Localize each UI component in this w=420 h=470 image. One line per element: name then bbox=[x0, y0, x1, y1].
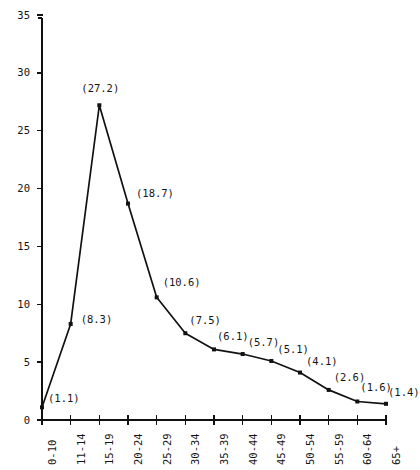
data-point-marker bbox=[97, 103, 101, 107]
x-axis-tick-label: 65+ bbox=[391, 446, 402, 465]
y-axis-tick-label: 30 bbox=[4, 67, 30, 78]
y-axis-tick-label: 15 bbox=[4, 241, 30, 252]
data-point-value-label: (6.1) bbox=[217, 331, 249, 342]
x-axis-tick-label: 35-39 bbox=[219, 433, 230, 465]
x-axis-tick-label: 25-29 bbox=[162, 433, 173, 465]
y-axis-tick-label: 35 bbox=[4, 10, 30, 21]
x-axis-tick-label: 40-44 bbox=[248, 433, 259, 465]
data-point-marker bbox=[269, 359, 273, 363]
x-axis-tick-label: 11-14 bbox=[76, 433, 87, 465]
y-axis-tick-label: 10 bbox=[4, 299, 30, 310]
data-point-marker bbox=[183, 331, 187, 335]
data-point-value-label: (10.6) bbox=[163, 277, 201, 288]
y-axis-tick-label: 25 bbox=[4, 125, 30, 136]
data-point-marker bbox=[327, 388, 331, 392]
data-point-value-label: (18.7) bbox=[136, 188, 174, 199]
data-point-value-label: (1.4) bbox=[388, 387, 420, 398]
x-axis-tick-label: 60-64 bbox=[362, 433, 373, 465]
data-point-marker bbox=[355, 399, 359, 403]
data-point-marker bbox=[298, 371, 302, 375]
data-point-value-label: (27.2) bbox=[81, 83, 119, 94]
y-axis-tick-label: 0 bbox=[4, 415, 30, 426]
data-point-marker bbox=[155, 295, 159, 299]
data-point-marker bbox=[40, 405, 44, 409]
data-point-marker bbox=[241, 352, 245, 356]
data-point-marker bbox=[126, 202, 130, 206]
data-point-value-label: (5.7) bbox=[248, 337, 280, 348]
data-point-marker bbox=[384, 402, 388, 406]
y-axis-tick-label: 20 bbox=[4, 183, 30, 194]
data-point-marker bbox=[69, 322, 73, 326]
x-axis-tick-label: 0-10 bbox=[47, 440, 58, 465]
data-point-marker bbox=[212, 347, 216, 351]
x-axis-tick-label: 50-54 bbox=[305, 433, 316, 465]
x-axis-tick-label: 15-19 bbox=[104, 433, 115, 465]
data-point-value-label: (8.3) bbox=[81, 314, 113, 325]
x-axis-tick-label: 30-34 bbox=[190, 433, 201, 465]
data-point-value-label: (5.1) bbox=[277, 344, 309, 355]
data-point-value-label: (4.1) bbox=[306, 356, 338, 367]
y-axis-tick-label: 5 bbox=[4, 357, 30, 368]
data-point-value-label: (7.5) bbox=[189, 315, 221, 326]
x-axis-tick-label: 20-24 bbox=[133, 433, 144, 465]
x-axis-tick-label: 45-49 bbox=[276, 433, 287, 465]
x-axis-tick-label: 55-59 bbox=[334, 433, 345, 465]
data-point-value-label: (1.1) bbox=[48, 393, 80, 404]
